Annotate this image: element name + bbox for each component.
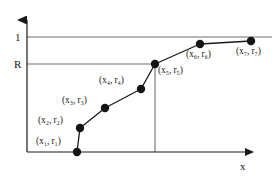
data-point-label-7: (x₇, r₇): [236, 47, 261, 57]
data-line-empirical-cdf: [77, 41, 251, 152]
figure-canvas: 1 R x (x₁, r₁) (x₂, r₂) (x₃, r₃) (x₄, r₄…: [0, 0, 275, 178]
data-point-6: [196, 40, 204, 48]
data-point-3: [101, 104, 109, 112]
data-point-label-3: (x₃, r₃): [62, 96, 87, 106]
y-tick-label-one: 1: [15, 32, 21, 43]
data-point-label-2: (x₂, r₂): [38, 116, 63, 126]
x-axis-label: x: [240, 161, 246, 172]
data-point-2: [76, 124, 84, 132]
data-point-label-1: (x₁, r₁): [36, 137, 61, 147]
y-tick-label-r: R: [14, 59, 21, 70]
data-point-label-6: (x₆, r₆): [186, 50, 211, 60]
data-point-4: [137, 85, 145, 93]
data-point-label-5: (x₅, r₅): [158, 66, 183, 76]
data-point-label-4: (x₄, r₄): [99, 76, 124, 86]
data-point-1: [73, 148, 81, 156]
data-point-7: [247, 37, 255, 45]
plot-area: [0, 0, 275, 178]
